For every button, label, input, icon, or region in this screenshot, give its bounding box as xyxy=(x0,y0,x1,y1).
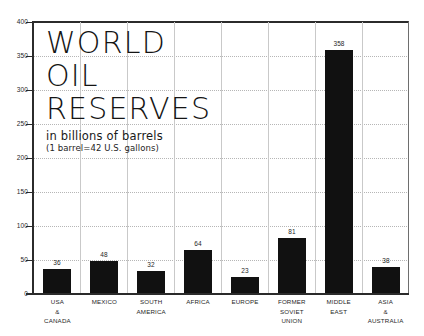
category-label-line: & xyxy=(34,307,81,317)
chart-title-line-2: OIL xyxy=(46,59,266,92)
category-label-former-soviet-union: FORMER SOVIET UNION xyxy=(268,297,315,326)
category-label-africa: AFRICA xyxy=(175,297,222,326)
y-tick-label: 400 xyxy=(4,17,28,26)
bar-value-label: 32 xyxy=(147,261,154,269)
category-label-line: AMERICA xyxy=(128,307,175,317)
bar xyxy=(90,261,118,294)
category-label-line: EUROPE xyxy=(222,297,269,307)
world-oil-reserves-chart: 400 350 300 250 200 150 100 50 0 xyxy=(0,0,424,336)
category-label-europe: EUROPE xyxy=(222,297,269,326)
category-label-asia-australia: ASIA & AUSTRALIA xyxy=(362,297,409,326)
y-tick-label: 250 xyxy=(4,119,28,128)
bar xyxy=(231,277,259,293)
bar-value-label: 81 xyxy=(288,228,295,236)
bar-column-former-soviet-union: 81 xyxy=(269,22,316,293)
chart-subtitle: in billions of barrels xyxy=(46,129,266,143)
category-label-mexico: MEXICO xyxy=(81,297,128,326)
chart-subtitle-note: (1 barrel=42 U.S. gallons) xyxy=(46,143,266,154)
category-label-line: AUSTRALIA xyxy=(362,316,409,326)
category-label-line: SOUTH xyxy=(128,297,175,307)
bar-column-middle-east: 358 xyxy=(316,22,363,293)
bar-value-label: 358 xyxy=(333,40,344,48)
category-label-south-america: SOUTH AMERICA xyxy=(128,297,175,326)
bar xyxy=(184,250,212,293)
chart-title-line-3: RESERVES xyxy=(46,92,266,125)
category-label-line: EAST xyxy=(315,307,362,317)
category-label-middle-east: MIDDLE EAST xyxy=(315,297,362,326)
bar-value-label: 36 xyxy=(53,259,60,267)
bar-column-asia-australia: 38 xyxy=(363,22,409,293)
bar xyxy=(137,271,165,293)
y-tick-label: 50 xyxy=(4,255,28,264)
bar-value-label: 23 xyxy=(241,267,248,275)
bar xyxy=(278,238,306,293)
category-label-line: FORMER xyxy=(268,297,315,307)
category-label-line: & xyxy=(362,307,409,317)
y-tick-label: 150 xyxy=(4,187,28,196)
bar xyxy=(325,50,353,293)
category-axis-labels: USA & CANADA MEXICO SOUTH AMERICA AFRICA… xyxy=(34,297,409,326)
y-tick-label: 0 xyxy=(4,289,28,298)
category-label-line: MIDDLE xyxy=(315,297,362,307)
chart-title-line-1: WORLD xyxy=(46,26,266,59)
category-label-line: MEXICO xyxy=(81,297,128,307)
y-tick-label: 300 xyxy=(4,85,28,94)
category-label-line: AFRICA xyxy=(175,297,222,307)
category-label-line: USA xyxy=(34,297,81,307)
category-label-usa-canada: USA & CANADA xyxy=(34,297,81,326)
category-label-line: UNION xyxy=(268,316,315,326)
category-label-line: CANADA xyxy=(34,316,81,326)
bar-value-label: 48 xyxy=(100,251,107,259)
bar xyxy=(372,267,400,293)
category-label-line: SOVIET xyxy=(268,307,315,317)
y-tick-label: 100 xyxy=(4,221,28,230)
x-axis-baseline xyxy=(26,293,409,295)
y-tick-label: 350 xyxy=(4,51,28,60)
bar xyxy=(43,269,71,293)
y-tick-label: 200 xyxy=(4,153,28,162)
bar-value-label: 64 xyxy=(194,240,201,248)
category-label-line: ASIA xyxy=(362,297,409,307)
bar-value-label: 38 xyxy=(382,257,389,265)
chart-title-block: WORLD OIL RESERVES in billions of barrel… xyxy=(46,26,266,154)
